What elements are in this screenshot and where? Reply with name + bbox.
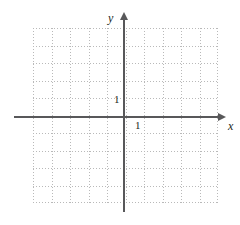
x-axis-line bbox=[14, 116, 218, 118]
y-axis-label: y bbox=[108, 12, 113, 24]
y-axis-arrow-icon bbox=[120, 12, 128, 20]
grid-line-horizontal bbox=[33, 168, 218, 169]
y-axis-unit-label: 1 bbox=[114, 94, 120, 105]
y-axis-line bbox=[123, 20, 125, 212]
grid-line-horizontal bbox=[33, 151, 218, 152]
coordinate-plane-figure: y x 1 1 bbox=[0, 0, 240, 225]
grid-line-horizontal bbox=[33, 81, 218, 82]
grid-line-horizontal bbox=[33, 202, 218, 203]
grid-line-horizontal bbox=[33, 46, 218, 47]
grid-line-horizontal bbox=[33, 133, 218, 134]
x-axis-label: x bbox=[228, 120, 233, 132]
x-axis-unit-label: 1 bbox=[135, 120, 141, 131]
x-axis-arrow-icon bbox=[218, 113, 226, 121]
grid-line-horizontal bbox=[33, 98, 218, 99]
grid-line-horizontal bbox=[33, 63, 218, 64]
grid-line-horizontal bbox=[33, 186, 218, 187]
grid-line-horizontal bbox=[33, 28, 218, 29]
